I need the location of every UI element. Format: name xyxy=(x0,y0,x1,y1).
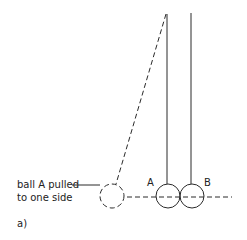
annotation-line-1: ball A pulled xyxy=(17,178,79,191)
figure-label: a) xyxy=(17,217,27,230)
displaced-ball-a xyxy=(100,184,124,208)
ball-b-label: B xyxy=(204,176,211,189)
pendulum-diagram xyxy=(0,0,247,240)
annotation-line-2: to one side xyxy=(17,191,73,204)
ball-a-label: A xyxy=(147,176,154,189)
displaced-string-dashed xyxy=(116,14,166,184)
ball-a xyxy=(156,184,180,208)
ball-b xyxy=(180,184,204,208)
